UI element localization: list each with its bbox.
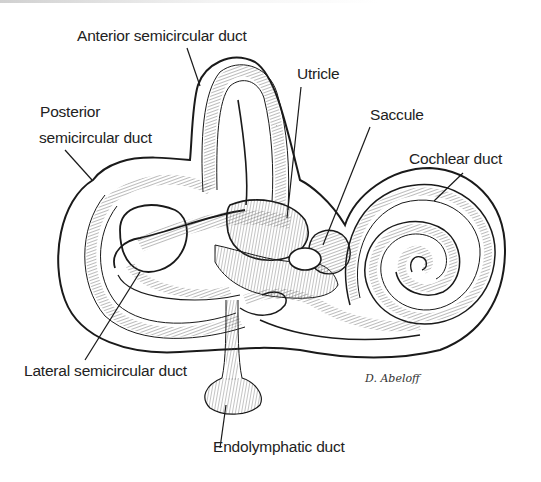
leader-posterior (65, 150, 92, 180)
label-posterior-line2: semicircular duct (39, 129, 152, 147)
label-cochlear-duct: Cochlear duct (409, 150, 502, 168)
label-saccule: Saccule (370, 106, 424, 124)
label-utricle: Utricle (297, 65, 340, 83)
leader-utricle (287, 87, 301, 218)
label-endolymphatic-duct: Endolymphatic duct (213, 438, 345, 456)
anterior-semicircular-duct (202, 65, 289, 210)
leader-anterior (187, 48, 200, 86)
label-lateral-semicircular-duct: Lateral semicircular duct (24, 362, 187, 380)
artist-signature: D. Abeloff (365, 372, 420, 385)
endolymphatic-duct (205, 300, 261, 414)
inner-ear-drawing (0, 0, 541, 482)
label-posterior-line1: Posterior (40, 103, 100, 121)
label-anterior-semicircular-duct: Anterior semicircular duct (77, 27, 247, 45)
cochlear-duct (346, 184, 495, 324)
